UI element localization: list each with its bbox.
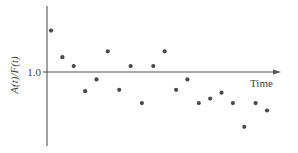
data-point [174, 88, 178, 92]
data-point [254, 101, 258, 105]
data-point [60, 55, 64, 59]
data-point [83, 89, 87, 93]
data-points [49, 29, 269, 129]
data-point [163, 49, 167, 53]
data-point [208, 97, 212, 101]
data-point [106, 49, 110, 53]
scatter-chart: 1.0 A(t)/F(t) Time [0, 0, 298, 153]
data-point [219, 91, 223, 95]
y-axis [43, 6, 47, 146]
data-point [265, 108, 269, 112]
data-point [72, 64, 76, 68]
x-axis-arrow-icon [273, 70, 281, 75]
data-point [94, 77, 98, 81]
data-point [129, 64, 133, 68]
data-point [242, 125, 246, 129]
y-tick-label: 1.0 [27, 66, 41, 78]
y-axis-label: A(t)/F(t) [8, 56, 21, 95]
data-point [151, 64, 155, 68]
data-point [231, 101, 235, 105]
data-point [140, 101, 144, 105]
x-axis [47, 70, 281, 75]
data-point [49, 29, 53, 33]
x-axis-label: Time [250, 77, 273, 89]
data-point [197, 101, 201, 105]
data-point [117, 88, 121, 92]
data-point [185, 77, 189, 81]
